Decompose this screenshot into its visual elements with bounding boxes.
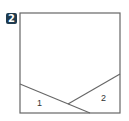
region-label-1: 1 (37, 98, 42, 108)
dividing-line-1 (20, 84, 90, 113)
dividing-line-2 (68, 74, 120, 104)
geometry-diagram: 1 2 (0, 0, 129, 121)
region-label-2: 2 (101, 93, 106, 103)
